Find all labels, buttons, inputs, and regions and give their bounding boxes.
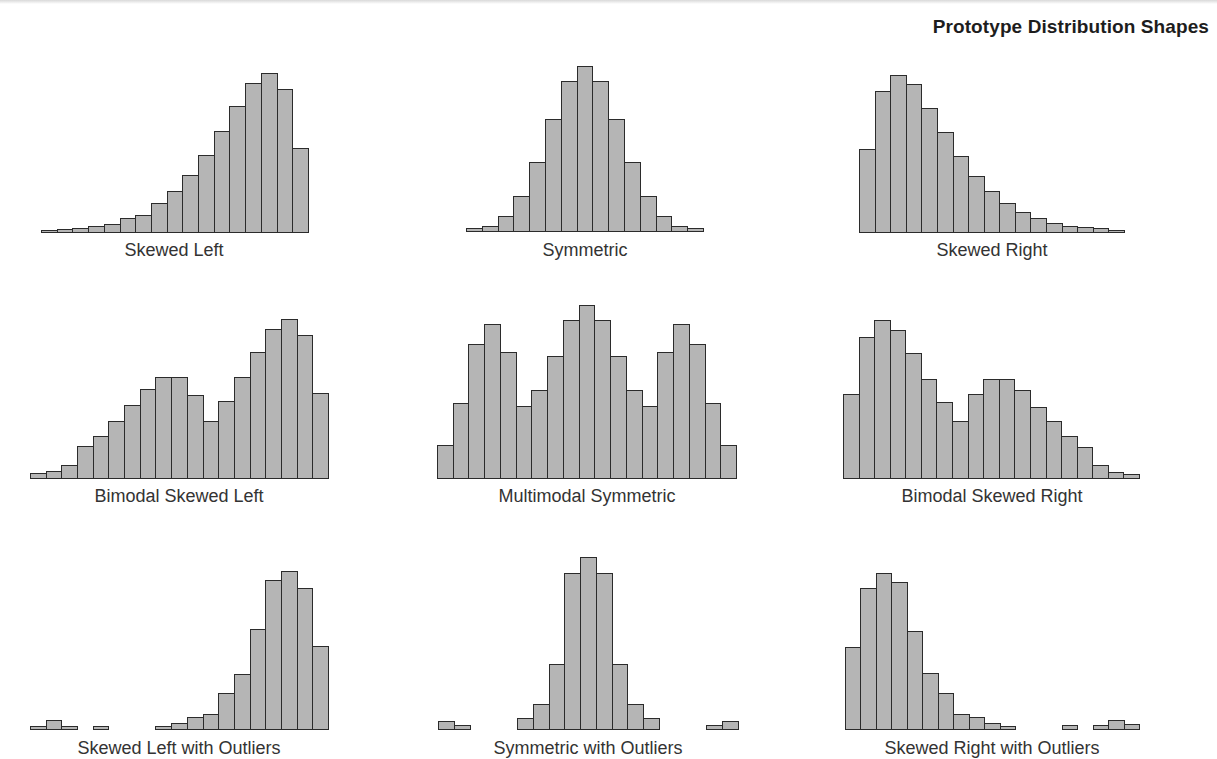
histogram-bar bbox=[999, 379, 1015, 479]
histogram-bar bbox=[1077, 447, 1093, 479]
page-title: Prototype Distribution Shapes bbox=[933, 16, 1209, 38]
histogram-bar bbox=[596, 573, 613, 730]
label-symmetric-with-outliers: Symmetric with Outliers bbox=[438, 738, 738, 759]
histogram-bar bbox=[642, 406, 658, 479]
histogram-bar bbox=[187, 395, 204, 479]
histogram-bar bbox=[1108, 472, 1124, 479]
histogram-bar bbox=[482, 226, 499, 232]
histogram-bar bbox=[265, 329, 282, 479]
histogram-bar bbox=[468, 344, 485, 479]
histogram-bar bbox=[921, 108, 938, 233]
histogram-bar bbox=[549, 664, 565, 730]
histogram-bar bbox=[1061, 436, 1078, 479]
histogram-bar bbox=[1015, 212, 1031, 233]
histogram-bar bbox=[250, 629, 266, 730]
label-skewed-right: Skewed Right bbox=[892, 240, 1092, 261]
histogram-bar bbox=[843, 394, 860, 479]
histogram-bar bbox=[93, 436, 109, 479]
histogram-bar bbox=[108, 421, 125, 479]
histogram-bar bbox=[1030, 407, 1047, 479]
histogram-bar bbox=[498, 216, 514, 232]
histogram-bar bbox=[983, 379, 1000, 479]
histogram-bar bbox=[722, 721, 739, 730]
histogram-bar bbox=[30, 473, 47, 479]
histogram-bar bbox=[214, 131, 230, 233]
histogram-bar bbox=[547, 356, 564, 479]
histogram-bar bbox=[124, 405, 141, 479]
histogram-bar bbox=[438, 721, 455, 730]
histogram-bar bbox=[657, 352, 674, 479]
histogram-bar bbox=[706, 725, 723, 730]
histogram-bar bbox=[608, 119, 625, 232]
histogram-bar bbox=[171, 723, 188, 730]
histogram-bar bbox=[312, 646, 329, 730]
top-border bbox=[0, 0, 1217, 4]
histogram-bar bbox=[1093, 725, 1109, 730]
histogram-bar bbox=[859, 337, 875, 479]
histogram-bar bbox=[297, 335, 313, 479]
histogram-bar bbox=[234, 674, 251, 730]
histogram-bar bbox=[984, 191, 1000, 233]
histogram-bar bbox=[140, 389, 156, 479]
histogram-bar bbox=[1093, 228, 1109, 233]
histogram-bar bbox=[277, 89, 293, 233]
histogram-bar bbox=[250, 352, 266, 479]
histogram-bar bbox=[182, 175, 199, 233]
histogram-bar bbox=[46, 720, 62, 730]
histogram-bar bbox=[875, 91, 891, 233]
histogram-bar bbox=[1000, 726, 1016, 730]
histogram-bar bbox=[1030, 218, 1047, 233]
histogram-bar bbox=[1092, 465, 1109, 479]
histogram-bar bbox=[437, 445, 454, 479]
histogram-bar bbox=[564, 573, 581, 730]
histogram-bar bbox=[720, 445, 737, 479]
histogram-bar bbox=[198, 155, 215, 233]
histogram-bar bbox=[1062, 725, 1078, 730]
histogram-bar bbox=[155, 726, 172, 730]
histogram-bar bbox=[30, 726, 47, 730]
label-bimodal-skewed-left: Bimodal Skewed Left bbox=[39, 486, 319, 507]
histogram-bar bbox=[937, 132, 954, 233]
histogram-bar bbox=[594, 320, 611, 479]
histogram-bar bbox=[936, 402, 953, 479]
histogram-bar bbox=[61, 465, 78, 479]
histogram-bar bbox=[72, 228, 89, 233]
histogram-bar bbox=[907, 631, 923, 730]
histogram-bar bbox=[167, 191, 183, 233]
histogram-bar bbox=[245, 83, 262, 233]
histogram-bar bbox=[579, 305, 595, 479]
histogram-bar bbox=[1077, 227, 1094, 233]
histogram-bar bbox=[687, 228, 704, 232]
histogram-bar bbox=[626, 390, 643, 479]
histogram-bar bbox=[93, 726, 109, 730]
histogram-bar bbox=[643, 718, 660, 730]
histogram-bar bbox=[968, 176, 985, 233]
histogram-bar bbox=[187, 717, 204, 730]
histogram-bar bbox=[671, 226, 688, 232]
histogram-bar bbox=[1062, 226, 1078, 233]
histogram-bar bbox=[120, 218, 136, 233]
histogram-bar bbox=[229, 106, 246, 233]
histogram-bar bbox=[516, 406, 532, 479]
histogram-bar bbox=[234, 377, 251, 479]
label-skewed-left-with-outliers: Skewed Left with Outliers bbox=[29, 738, 329, 759]
histogram-bar bbox=[454, 725, 471, 730]
histogram-bar bbox=[265, 580, 282, 730]
histogram-bar bbox=[891, 582, 908, 730]
label-multimodal-symmetric: Multimodal Symmetric bbox=[447, 486, 727, 507]
histogram-bar bbox=[529, 162, 546, 232]
histogram-bar bbox=[874, 320, 891, 479]
histogram-bar bbox=[1108, 720, 1125, 730]
histogram-bar bbox=[533, 704, 550, 730]
histogram-bar bbox=[500, 352, 517, 479]
histogram-bar bbox=[517, 718, 534, 730]
histogram-bar bbox=[41, 230, 58, 233]
histogram-bar bbox=[845, 647, 861, 730]
histogram-bar bbox=[218, 401, 235, 479]
histogram-bar bbox=[1124, 724, 1140, 730]
histogram-bar bbox=[890, 75, 907, 233]
label-symmetric: Symmetric bbox=[485, 240, 685, 261]
histogram-bar bbox=[577, 66, 593, 232]
histogram-bar bbox=[1123, 474, 1140, 479]
histogram-bar bbox=[466, 228, 483, 232]
